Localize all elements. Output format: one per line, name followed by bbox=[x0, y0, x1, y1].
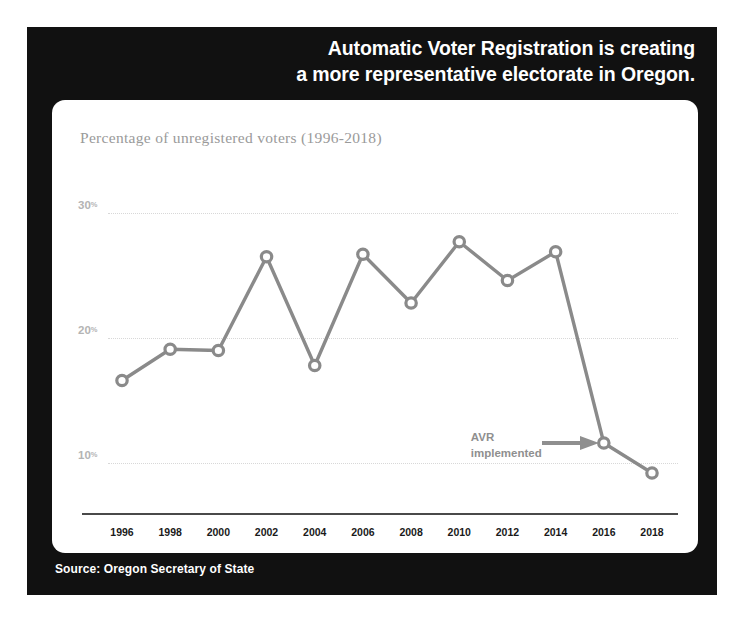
chart-subtitle: Percentage of unregistered voters (1996-… bbox=[80, 129, 382, 147]
x-axis-tick-label: 2006 bbox=[351, 526, 374, 538]
data-point-marker bbox=[213, 345, 223, 355]
poster-panel: Automatic Voter Registration is creating… bbox=[27, 27, 717, 595]
data-point-marker bbox=[647, 468, 657, 478]
x-axis-tick-label: 1998 bbox=[158, 526, 181, 538]
data-point-marker bbox=[261, 252, 271, 262]
data-point-marker bbox=[550, 247, 560, 257]
chart-card: Percentage of unregistered voters (1996-… bbox=[52, 100, 698, 553]
headline: Automatic Voter Registration is creating… bbox=[55, 36, 695, 87]
x-axis-tick-label: 2010 bbox=[448, 526, 471, 538]
x-axis-tick-label: 2008 bbox=[399, 526, 422, 538]
avr-annotation-line-2: implemented bbox=[471, 446, 542, 462]
x-axis-tick-label: 2016 bbox=[592, 526, 615, 538]
data-point-marker bbox=[502, 275, 512, 285]
x-axis-tick-label: 2014 bbox=[544, 526, 567, 538]
x-axis-tick-label: 2000 bbox=[207, 526, 230, 538]
data-point-marker bbox=[454, 237, 464, 247]
x-axis-labels: 1996199820002002200420062008201020122014… bbox=[90, 520, 678, 546]
data-point-marker bbox=[117, 375, 127, 385]
x-axis-tick-label: 2004 bbox=[303, 526, 326, 538]
headline-line-2: a more representative electorate in Oreg… bbox=[55, 62, 695, 88]
headline-line-1: Automatic Voter Registration is creating bbox=[55, 36, 695, 62]
avr-annotation-line-1: AVR bbox=[471, 430, 542, 446]
data-point-marker bbox=[599, 438, 609, 448]
line-series bbox=[90, 178, 678, 550]
poster-root: Automatic Voter Registration is creating… bbox=[0, 0, 745, 622]
avr-annotation: AVR implemented bbox=[471, 430, 542, 461]
data-point-marker bbox=[358, 249, 368, 259]
x-axis-line bbox=[82, 513, 678, 515]
data-point-marker bbox=[310, 360, 320, 370]
data-point-marker bbox=[165, 344, 175, 354]
x-axis-tick-label: 2002 bbox=[255, 526, 278, 538]
source-caption: Source: Oregon Secretary of State bbox=[55, 562, 254, 576]
arrow-right-icon bbox=[542, 433, 600, 453]
x-axis-tick-label: 2018 bbox=[640, 526, 663, 538]
x-axis-tick-label: 1996 bbox=[110, 526, 133, 538]
data-point-marker bbox=[406, 298, 416, 308]
x-axis-tick-label: 2012 bbox=[496, 526, 519, 538]
plot-area: 10%20%30% AVR implemented 19961998200020… bbox=[90, 178, 678, 550]
